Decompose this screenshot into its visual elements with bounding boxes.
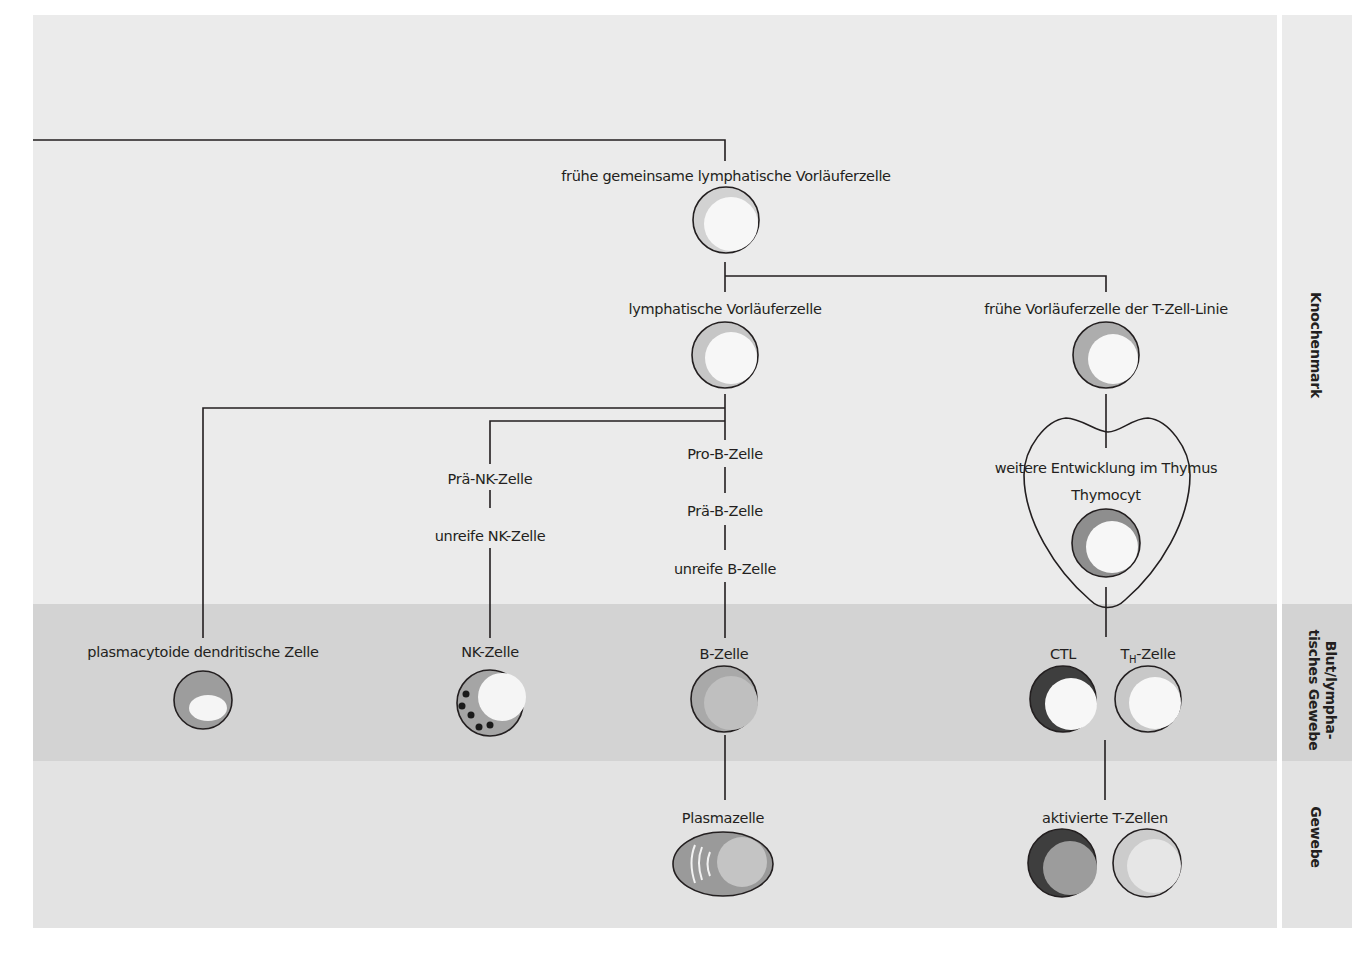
label-clp: frühe gemeinsame lymphatische Vorläuferz… xyxy=(561,168,891,184)
label-nk: NK-Zelle xyxy=(461,644,519,660)
label-immature-nk: unreife NK-Zelle xyxy=(435,528,546,544)
label-immature-b: unreife B-Zelle xyxy=(674,561,776,577)
line-to-early-t xyxy=(725,276,1106,292)
label-pre-nk: Prä-NK-Zelle xyxy=(448,471,533,487)
label-pre-b: Prä-B-Zelle xyxy=(687,503,763,519)
label-pdc: plasmacytoide dendritische Zelle xyxy=(87,644,319,660)
label-th-cell: TH-Zelle xyxy=(1119,646,1175,665)
cell-activated-th xyxy=(1113,829,1181,897)
label-thymocyte: Thymocyt xyxy=(1070,487,1141,503)
cell-clp xyxy=(693,187,759,253)
label-thymus-development: weitere Entwicklung im Thymus xyxy=(995,460,1218,476)
region-label-tissue: Gewebe xyxy=(1308,806,1324,868)
cell-nk xyxy=(457,670,526,736)
cell-ctl xyxy=(1030,666,1097,732)
label-activated-t-cells: aktivierte T-Zellen xyxy=(1042,810,1168,826)
cell-thymocyte xyxy=(1072,509,1140,577)
label-pro-b: Pro-B-Zelle xyxy=(687,446,763,462)
cell-plasma xyxy=(673,832,773,896)
cell-pdc xyxy=(174,671,232,729)
line-top-to-clp xyxy=(33,140,725,161)
label-lymphoid-progenitor: lymphatische Vorläuferzelle xyxy=(628,301,821,317)
cell-activated-ctl xyxy=(1028,829,1097,897)
lymphocyte-lineage-diagram: frühe gemeinsame lymphatische Vorläuferz… xyxy=(0,0,1371,955)
cell-b xyxy=(691,666,758,732)
cell-early-t-progenitor xyxy=(1073,322,1139,388)
label-ctl: CTL xyxy=(1050,646,1076,662)
label-plasma-cell: Plasmazelle xyxy=(682,810,765,826)
region-label-bone-marrow: Knochenmark xyxy=(1308,292,1324,399)
region-label-blood-line1: Blut/lympha- xyxy=(1323,641,1339,740)
region-label-blood-line2: tisches Gewebe xyxy=(1306,630,1322,751)
label-early-t-progenitor: frühe Vorläuferzelle der T-Zell-Linie xyxy=(984,301,1228,317)
label-b-cell: B-Zelle xyxy=(700,646,749,662)
cell-lymphoid-progenitor xyxy=(692,322,758,388)
cell-th xyxy=(1115,666,1181,732)
line-to-pdc xyxy=(203,408,725,638)
